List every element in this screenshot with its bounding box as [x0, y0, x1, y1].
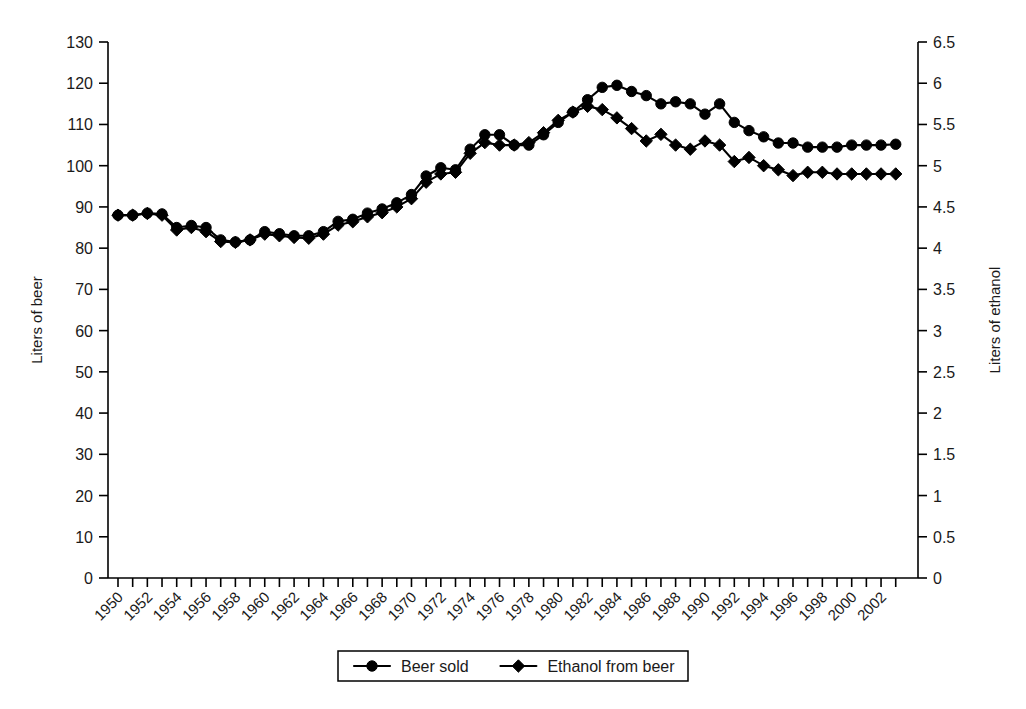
x-tick-label: 1956	[179, 588, 215, 624]
data-point-marker	[876, 140, 886, 150]
data-point-marker	[714, 99, 724, 109]
left-tick-label: 120	[66, 75, 93, 92]
data-point-marker	[685, 99, 695, 109]
data-point-marker	[244, 234, 256, 246]
left-tick-label: 90	[75, 199, 93, 216]
data-point-marker	[744, 125, 754, 135]
data-point-marker	[508, 139, 520, 151]
chart-legend: Beer soldEthanol from beer	[338, 651, 688, 681]
x-tick-label: 1988	[648, 588, 684, 624]
data-point-marker	[802, 142, 812, 152]
chart-container: 0102030405060708090100110120130 00.511.5…	[0, 0, 1026, 709]
right-tick-label: 2.5	[933, 364, 955, 381]
legend-label: Beer sold	[401, 658, 469, 675]
right-tick-label: 4	[933, 240, 942, 257]
line-chart: 0102030405060708090100110120130 00.511.5…	[0, 0, 1026, 709]
right-axis-title: Liters of ethanol	[986, 267, 1003, 374]
legend-label: Ethanol from beer	[547, 658, 675, 675]
data-point-marker	[596, 103, 608, 115]
left-tick-label: 80	[75, 240, 93, 257]
right-tick-label: 6.5	[933, 34, 955, 51]
left-tick-label: 40	[75, 405, 93, 422]
data-point-marker	[729, 117, 739, 127]
left-tick-label: 20	[75, 488, 93, 505]
data-point-marker	[699, 135, 711, 147]
data-point-marker	[229, 236, 241, 248]
x-tick-label: 1994	[736, 588, 772, 624]
right-tick-label: 2	[933, 405, 942, 422]
right-tick-label: 5	[933, 158, 942, 175]
data-point-marker	[641, 90, 651, 100]
left-axis-ticks: 0102030405060708090100110120130	[66, 34, 108, 587]
data-point-marker	[700, 109, 710, 119]
data-point-marker	[743, 151, 755, 163]
data-point-marker	[845, 168, 857, 180]
left-tick-label: 30	[75, 446, 93, 463]
left-tick-label: 130	[66, 34, 93, 51]
legend-marker-circle-icon	[367, 661, 377, 671]
data-point-marker	[597, 82, 607, 92]
data-point-marker	[772, 164, 784, 176]
data-point-marker	[684, 143, 696, 155]
right-tick-label: 0	[933, 570, 942, 587]
x-tick-label: 1950	[91, 588, 127, 624]
x-tick-label: 1992	[707, 588, 743, 624]
x-tick-label: 1964	[296, 588, 332, 624]
data-point-marker	[846, 140, 856, 150]
x-tick-label: 1976	[472, 588, 508, 624]
data-point-marker	[875, 168, 887, 180]
left-tick-label: 10	[75, 529, 93, 546]
x-tick-label: 1958	[208, 588, 244, 624]
data-point-marker	[816, 166, 828, 178]
right-tick-label: 1.5	[933, 446, 955, 463]
right-tick-label: 3.5	[933, 281, 955, 298]
left-axis-title: Liters of beer	[28, 276, 45, 364]
right-tick-label: 1	[933, 488, 942, 505]
right-tick-label: 5.5	[933, 116, 955, 133]
data-point-marker	[890, 168, 902, 180]
x-tick-label: 1980	[531, 588, 567, 624]
x-tick-label: 1952	[120, 588, 156, 624]
data-point-marker	[891, 139, 901, 149]
data-point-marker	[801, 166, 813, 178]
data-point-marker	[126, 209, 138, 221]
data-point-marker	[860, 168, 872, 180]
x-tick-label: 1972	[413, 588, 449, 624]
data-point-marker	[626, 86, 636, 96]
data-point-marker	[831, 168, 843, 180]
x-tick-label: 1954	[149, 588, 185, 624]
x-tick-label: 1996	[766, 588, 802, 624]
right-tick-label: 0.5	[933, 529, 955, 546]
data-point-marker	[832, 142, 842, 152]
legend-item[interactable]: Ethanol from beer	[500, 658, 675, 675]
data-point-marker	[861, 140, 871, 150]
left-tick-label: 60	[75, 323, 93, 340]
data-point-marker	[670, 97, 680, 107]
series-circle	[113, 80, 901, 247]
left-tick-label: 100	[66, 158, 93, 175]
x-tick-label: 1978	[501, 588, 537, 624]
x-axis-ticks: 1950195219541956195819601962196419661968…	[91, 578, 896, 624]
left-tick-label: 70	[75, 281, 93, 298]
x-tick-label: 1990	[677, 588, 713, 624]
series-layer	[112, 80, 902, 248]
data-point-marker	[788, 138, 798, 148]
left-tick-label: 50	[75, 364, 93, 381]
data-point-marker	[493, 139, 505, 151]
data-point-marker	[112, 209, 124, 221]
data-point-marker	[758, 132, 768, 142]
series-line	[118, 85, 896, 242]
legend-item[interactable]: Beer sold	[354, 658, 469, 675]
x-tick-label: 1984	[589, 588, 625, 624]
x-tick-label: 1998	[795, 588, 831, 624]
x-tick-label: 1986	[619, 588, 655, 624]
x-tick-label: 1968	[355, 588, 391, 624]
x-tick-label: 1960	[237, 588, 273, 624]
data-point-marker	[141, 207, 153, 219]
x-tick-label: 1962	[267, 588, 303, 624]
data-point-marker	[757, 159, 769, 171]
data-point-marker	[773, 138, 783, 148]
data-point-marker	[612, 80, 622, 90]
data-point-marker	[787, 169, 799, 181]
right-tick-label: 3	[933, 323, 942, 340]
